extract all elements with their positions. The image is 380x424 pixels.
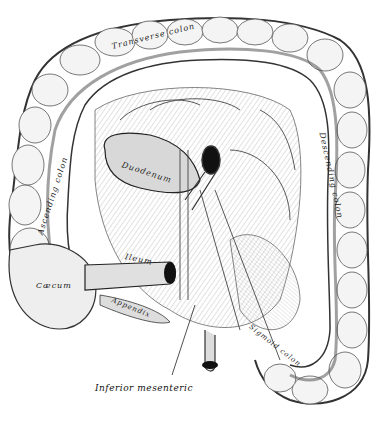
aorta-lumen — [202, 361, 218, 369]
ileum-lumen — [164, 262, 176, 284]
colon-illustration — [0, 0, 380, 424]
label-inferior-mesenteric: Inferior mesenteric — [95, 383, 193, 393]
vessel-lumen — [202, 146, 220, 174]
label-caecum: Cæcum — [36, 281, 72, 290]
